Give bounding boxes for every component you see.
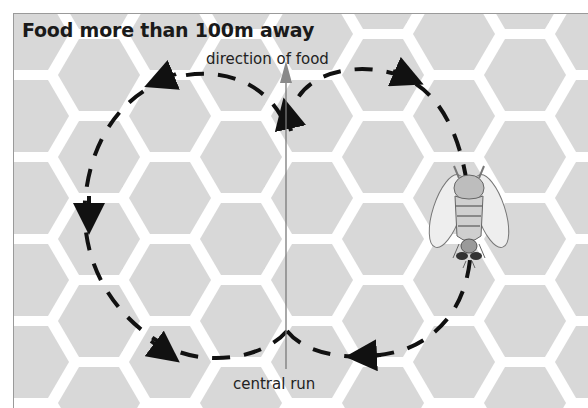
- central-run-label: central run: [233, 375, 315, 393]
- diagram-title: Food more than 100m away: [22, 19, 314, 41]
- honeycomb-diagram: [14, 14, 588, 408]
- diagram-frame: Food more than 100m away direction of fo…: [13, 13, 588, 408]
- direction-of-food-label: direction of food: [206, 50, 329, 68]
